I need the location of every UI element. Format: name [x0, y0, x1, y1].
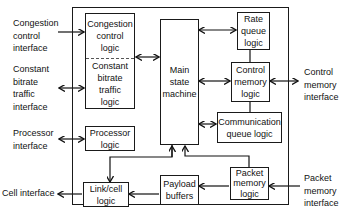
- congestion-control-interface-label: Congestion control interface: [13, 17, 59, 55]
- communication-queue-logic-block: Communication queue logic: [217, 112, 282, 143]
- processor-logic-block: Processor logic: [85, 126, 135, 151]
- control-memory-interface-label: Control memory interface: [304, 66, 339, 104]
- packet-memory-logic-block: Packet memory logic: [230, 167, 269, 200]
- link-cell-logic-block: Link/cell logic: [83, 182, 129, 207]
- cell-interface-label: Cell interface: [2, 187, 55, 200]
- constant-bitrate-logic-block: Constant bitrate traffic logic: [86, 59, 134, 109]
- constant-bitrate-interface-label: Constant bitrate traffic interface: [13, 63, 49, 113]
- payload-buffers-block: Payload buffers: [160, 175, 199, 205]
- congestion-and-cbr-logic-block: Congestion control logic Constant bitrat…: [85, 13, 135, 109]
- congestion-control-logic-block: Congestion control logic: [86, 14, 134, 58]
- control-memory-logic-block: Control memory logic: [231, 62, 270, 102]
- processor-interface-label: Processor interface: [13, 127, 54, 152]
- rate-queue-logic-block: Rate queue logic: [237, 12, 270, 50]
- main-state-machine-block: Main state machine: [160, 19, 199, 145]
- packet-memory-interface-label: Packet memory interface: [304, 172, 339, 210]
